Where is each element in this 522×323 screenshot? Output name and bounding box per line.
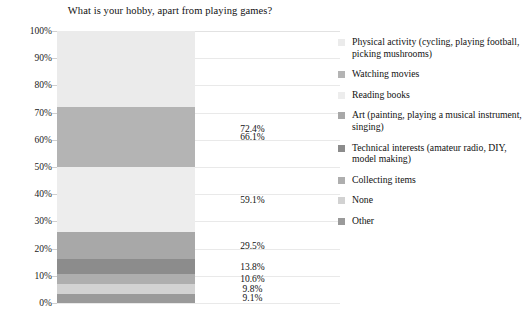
y-tick-mark-60 xyxy=(52,140,57,141)
y-tick-mark-30 xyxy=(52,221,57,222)
legend-item-label: Other xyxy=(352,215,374,227)
legend-swatch-icon xyxy=(338,92,345,99)
y-tick-mark-100 xyxy=(52,31,57,32)
legend-swatch-icon xyxy=(338,112,345,119)
legend-swatch-icon xyxy=(338,39,345,46)
data-label-collecting-items: 10.6% xyxy=(205,274,300,284)
y-tick-mark-90 xyxy=(52,58,57,59)
legend-item-technical-interests-amateur-radio-diy-mo[interactable]: Technical interests (amateur radio, DIY,… xyxy=(338,142,522,165)
legend-item-label: Physical activity (cycling, playing foot… xyxy=(352,36,522,59)
data-label-watching-movies: 66.1% xyxy=(205,132,300,142)
legend-item-label: None xyxy=(352,194,373,206)
y-tick-mark-50 xyxy=(52,167,57,168)
y-tick-mark-20 xyxy=(52,249,57,250)
legend-item-watching-movies[interactable]: Watching movies xyxy=(338,68,522,80)
legend-swatch-icon xyxy=(338,218,345,225)
legend-item-label: Technical interests (amateur radio, DIY,… xyxy=(352,142,522,165)
data-label-reading-books: 59.1% xyxy=(205,195,300,205)
legend-item-label: Art (painting, playing a musical instrum… xyxy=(352,109,522,132)
legend-swatch-icon xyxy=(338,197,345,204)
y-tick-mark-0 xyxy=(52,303,57,304)
data-label-technical-interests-amateur-radio-diy-mo: 13.8% xyxy=(205,262,300,272)
chart-title: What is your hobby, apart from playing g… xyxy=(0,5,340,16)
y-tick-mark-10 xyxy=(52,276,57,277)
chart-container: What is your hobby, apart from playing g… xyxy=(0,0,522,323)
y-tick-mark-80 xyxy=(52,85,57,86)
legend-item-other[interactable]: Other xyxy=(338,215,522,227)
legend-item-label: Collecting items xyxy=(352,174,416,186)
legend-item-art-painting-playing-a-musical-instrumen[interactable]: Art (painting, playing a musical instrum… xyxy=(338,109,522,132)
legend-swatch-icon xyxy=(338,177,345,184)
y-tick-mark-40 xyxy=(52,194,57,195)
data-label-none: 9.8% xyxy=(205,284,300,294)
legend-item-physical-activity-cycling-playing-footba[interactable]: Physical activity (cycling, playing foot… xyxy=(338,36,522,59)
legend-item-none[interactable]: None xyxy=(338,194,522,206)
chart-legend: Physical activity (cycling, playing foot… xyxy=(338,36,522,236)
legend-item-reading-books[interactable]: Reading books xyxy=(338,89,522,101)
data-label-other: 9.1% xyxy=(205,293,300,303)
data-label-art-painting-playing-a-musical-instrumen: 29.5% xyxy=(205,241,300,251)
legend-item-label: Watching movies xyxy=(352,68,419,80)
data-labels: 72.4%66.1%59.1%29.5%13.8%10.6%9.8%9.1% xyxy=(0,31,340,303)
legend-item-collecting-items[interactable]: Collecting items xyxy=(338,174,522,186)
legend-swatch-icon xyxy=(338,145,345,152)
y-tick-mark-70 xyxy=(52,113,57,114)
legend-item-label: Reading books xyxy=(352,89,410,101)
legend-swatch-icon xyxy=(338,71,345,78)
